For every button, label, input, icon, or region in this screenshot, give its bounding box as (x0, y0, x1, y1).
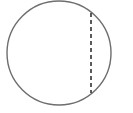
circle-outline (7, 1, 111, 105)
circle-chord-figure (0, 0, 133, 113)
diagram-canvas (0, 0, 133, 113)
